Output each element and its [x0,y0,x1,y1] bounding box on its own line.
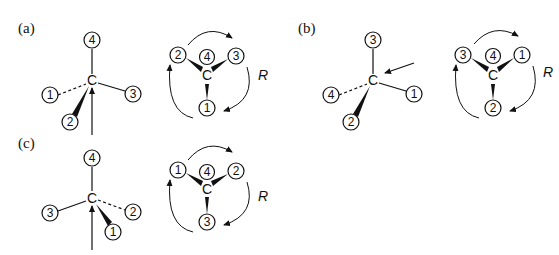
bottom-group: 1 [199,100,215,116]
upper-right-group: 2 [228,163,244,179]
wedge-bond [353,86,370,117]
panel-a-tetrahedral: C 4 1 3 2 [42,32,141,135]
substituent-2: 2 [62,114,78,130]
panel-b-projection: 4 C 3 1 2 R [455,31,553,118]
panel-c: (c) C 4 3 2 1 [18,135,268,250]
descriptor-label: R [258,67,268,83]
carbon-atom: C [87,190,97,206]
descriptor-label: R [543,64,553,80]
bond-left [58,201,86,211]
panel-label-b: (b) [298,20,316,37]
back-group: 4 [200,50,215,65]
substituent-2: 2 [343,114,359,130]
upper-left-group: 1 [170,162,186,178]
rotation-arrow-left [169,65,193,118]
panel-c-tetrahedral: C 4 3 2 1 [42,150,141,250]
descriptor-label: R [258,188,268,204]
stereochemistry-figure: (a) C 4 1 3 2 [0,0,559,255]
svg-text:2: 2 [490,101,497,115]
panel-label-c: (c) [18,135,35,152]
back-group: 4 [200,165,215,180]
substituent-3: 3 [365,32,381,48]
svg-text:3: 3 [370,33,377,47]
bond-right [379,83,406,91]
svg-text:3: 3 [47,206,54,220]
carbon-atom: C [202,181,212,197]
bond-right [98,83,125,91]
substituent-2: 2 [125,204,141,220]
bottom-group: 2 [485,100,501,116]
svg-text:4: 4 [204,165,211,179]
svg-text:2: 2 [175,48,182,62]
bond-dashed [58,84,86,95]
panel-a: (a) C 4 1 3 2 [18,20,268,135]
substituent-4: 4 [84,150,100,166]
svg-text:1: 1 [519,48,526,62]
panel-b: (b) C 3 4 1 2 [298,20,553,130]
svg-text:4: 4 [328,88,335,102]
upper-right-group: 3 [228,48,244,64]
panel-label-a: (a) [18,20,35,37]
bottom-group: 3 [199,214,215,230]
svg-text:4: 4 [89,33,96,47]
back-group: 4 [486,49,501,64]
rotation-arrow-right [224,67,249,111]
upper-left-group: 3 [455,47,471,63]
wedge-bottom [205,197,209,214]
svg-text:4: 4 [204,50,211,64]
substituent-1: 1 [105,224,121,240]
svg-text:1: 1 [411,87,418,101]
svg-text:2: 2 [67,115,74,129]
carbon-atom: C [87,72,97,88]
substituent-3: 3 [42,205,58,221]
rotation-arrow-top [188,31,232,45]
svg-text:1: 1 [110,225,117,239]
panel-c-projection: 4 C 1 2 3 R [169,146,268,232]
substituent-4: 4 [323,87,339,103]
rotation-arrow-left [455,65,479,118]
svg-text:1: 1 [175,163,182,177]
rotation-arrow-top [188,146,232,160]
view-arrow [385,63,414,73]
bond-dashed [98,200,125,210]
carbon-atom: C [368,72,378,88]
upper-right-group: 1 [514,47,530,63]
wedge-bottom [491,84,495,100]
rotation-arrow-top [474,31,518,44]
substituent-1: 1 [406,86,422,102]
wedge-bond [72,86,89,117]
svg-text:2: 2 [348,115,355,129]
wedge-bond [96,204,112,226]
rotation-arrow-right [510,66,535,111]
carbon-atom: C [202,67,212,83]
svg-text:3: 3 [130,87,137,101]
upper-left-group: 2 [170,47,186,63]
rotation-arrow-left [169,180,193,232]
wedge-bottom [205,84,209,100]
rotation-arrow-right [224,182,249,225]
panel-a-projection: 4 C 2 3 1 R [169,31,268,118]
panel-b-tetrahedral: C 3 4 1 2 [323,32,422,130]
svg-text:4: 4 [89,151,96,165]
bond-dashed [339,84,367,95]
svg-text:3: 3 [204,215,211,229]
substituent-4: 4 [84,32,100,48]
svg-text:1: 1 [204,101,211,115]
svg-text:3: 3 [233,49,240,63]
svg-text:1: 1 [47,88,54,102]
substituent-3: 3 [125,86,141,102]
carbon-atom: C [488,67,498,83]
svg-text:3: 3 [460,48,467,62]
svg-text:2: 2 [130,205,137,219]
svg-text:4: 4 [490,49,497,63]
substituent-1: 1 [42,87,58,103]
svg-text:2: 2 [233,164,240,178]
